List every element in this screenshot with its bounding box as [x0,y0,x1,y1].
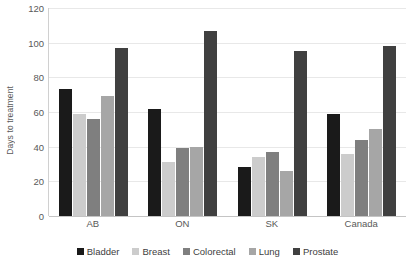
bar[interactable] [280,171,293,216]
x-axis-tick-label: SK [227,218,317,234]
bar[interactable] [294,51,307,216]
legend-swatch-icon [249,248,256,255]
y-axis-tick-label: 100 [28,37,44,48]
y-axis-tick-label: 120 [28,3,44,14]
legend-label: Breast [142,246,169,257]
axis-baseline [49,216,406,217]
bar[interactable] [101,96,114,216]
bar[interactable] [369,129,382,216]
y-axis-tick-label: 0 [39,211,44,222]
x-axis-tick-label: ON [138,218,228,234]
y-axis-tick-label: 20 [33,176,44,187]
legend-item[interactable]: Lung [249,246,280,257]
legend: BladderBreastColorectalLungProstate [0,243,415,259]
y-axis-title: Days to treatment [2,60,18,180]
legend-item[interactable]: Colorectal [183,246,236,257]
y-axis-tick-labels: 020406080100120 [18,8,44,216]
bar[interactable] [176,148,189,216]
bar-group [317,8,406,216]
bar[interactable] [115,48,128,216]
bar[interactable] [383,46,396,216]
x-axis-tick-label: Canada [317,218,407,234]
legend-label: Bladder [87,246,120,257]
bar-chart: Days to treatment 020406080100120 ABONSK… [0,0,415,263]
bar[interactable] [327,114,340,216]
bar[interactable] [252,157,265,216]
bar[interactable] [266,152,279,216]
bar[interactable] [238,167,251,216]
legend-swatch-icon [293,248,300,255]
bar[interactable] [87,119,100,216]
bar-group [138,8,227,216]
legend-label: Lung [259,246,280,257]
bar[interactable] [341,154,354,216]
y-axis-tick-label: 40 [33,141,44,152]
legend-item[interactable]: Prostate [293,246,338,257]
plot-area [48,8,406,216]
bar[interactable] [355,140,368,216]
x-axis-tick-label: AB [48,218,138,234]
legend-swatch-icon [77,248,84,255]
bar[interactable] [73,114,86,216]
legend-item[interactable]: Bladder [77,246,120,257]
bar-group [228,8,317,216]
bar[interactable] [148,109,161,216]
x-axis-tick-labels: ABONSKCanada [48,218,406,234]
legend-item[interactable]: Breast [132,246,169,257]
y-axis-tick-label: 80 [33,72,44,83]
bar-group [49,8,138,216]
bar[interactable] [59,89,72,216]
y-axis-tick-label: 60 [33,107,44,118]
legend-swatch-icon [132,248,139,255]
y-axis-title-label: Days to treatment [5,86,15,155]
bar-groups [49,8,406,216]
legend-swatch-icon [183,248,190,255]
bar[interactable] [204,31,217,216]
bar[interactable] [162,162,175,216]
bar[interactable] [190,147,203,216]
legend-label: Prostate [303,246,338,257]
legend-label: Colorectal [193,246,236,257]
